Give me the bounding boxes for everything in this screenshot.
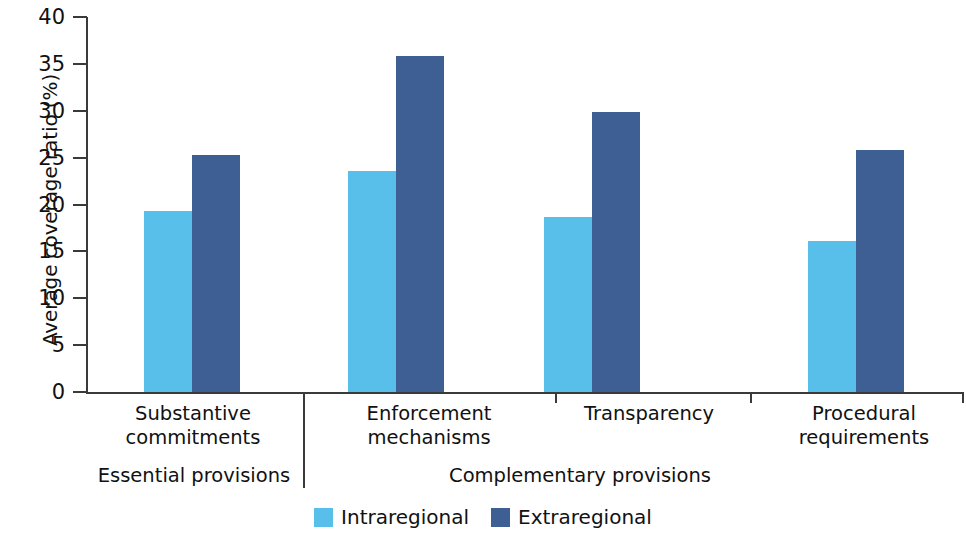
- y-axis-tick-label: 10: [5, 286, 65, 310]
- y-axis-tick: [73, 297, 87, 299]
- y-axis-tick-label: 0: [5, 380, 65, 404]
- bar-intraregional-1: [348, 171, 396, 393]
- y-axis-tick: [73, 344, 87, 346]
- y-axis-tick-label: 15: [5, 239, 65, 263]
- y-axis-tick: [73, 16, 87, 18]
- bar-extraregional-0: [192, 155, 240, 393]
- legend-label-extraregional: Extraregional: [518, 505, 652, 529]
- category-label-line1: Substantive: [100, 402, 286, 426]
- legend-item-extraregional: Extraregional: [491, 505, 652, 529]
- bar-extraregional-2: [592, 112, 640, 393]
- category-label-enforcement-mechanisms: Enforcement mechanisms: [333, 402, 525, 450]
- bar-extraregional-3: [856, 150, 904, 393]
- bar-chart-figure: Average coverage ratio (%) 0510152025303…: [0, 0, 966, 539]
- category-label-line1: Enforcement: [333, 402, 525, 426]
- y-axis-tick: [73, 110, 87, 112]
- y-axis-tick: [73, 250, 87, 252]
- section-label-complementary-provisions: Complementary provisions: [430, 464, 730, 487]
- y-axis-tick-label: 20: [5, 193, 65, 217]
- category-label-line2: mechanisms: [333, 426, 525, 450]
- bar-intraregional-3: [808, 241, 856, 393]
- x-axis-line: [86, 392, 964, 394]
- section-label-essential-provisions: Essential provisions: [90, 464, 298, 487]
- y-axis-tick-label: 35: [5, 52, 65, 76]
- category-label-procedural-requirements: Procedural requirements: [768, 402, 960, 450]
- plot-area: [86, 17, 964, 393]
- y-axis-tick: [73, 157, 87, 159]
- x-axis-tick-3: [750, 392, 752, 403]
- legend-swatch-icon-intraregional: [314, 508, 333, 527]
- category-label-line2: commitments: [100, 426, 286, 450]
- category-label-line2: requirements: [768, 426, 960, 450]
- y-axis-tick-label: 25: [5, 146, 65, 170]
- y-axis-tick-label: 5: [5, 333, 65, 357]
- bar-intraregional-0: [144, 211, 192, 393]
- y-axis-tick: [73, 63, 87, 65]
- legend-label-intraregional: Intraregional: [341, 505, 469, 529]
- y-axis-tick: [73, 204, 87, 206]
- legend-swatch-icon-extraregional: [491, 508, 510, 527]
- y-axis-tick-label: 30: [5, 99, 65, 123]
- y-axis-tick-label: 40: [5, 5, 65, 29]
- x-axis-tick-right: [962, 392, 964, 403]
- category-label-substantive-commitments: Substantive commitments: [100, 402, 286, 450]
- category-label-line1: Transparency: [552, 402, 746, 426]
- bar-intraregional-2: [544, 217, 592, 393]
- legend-item-intraregional: Intraregional: [314, 505, 469, 529]
- legend: Intraregional Extraregional: [0, 505, 966, 529]
- bar-extraregional-1: [396, 56, 444, 393]
- category-label-line1: Procedural: [768, 402, 960, 426]
- category-label-transparency: Transparency: [552, 402, 746, 426]
- y-axis-tick: [73, 391, 87, 393]
- section-divider: [303, 392, 305, 488]
